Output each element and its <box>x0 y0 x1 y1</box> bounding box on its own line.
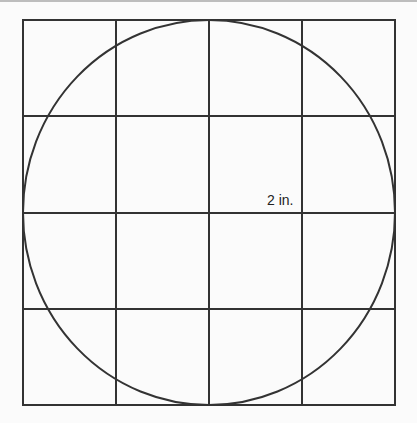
grid-circle-diagram <box>0 0 417 423</box>
radius-label: 2 in. <box>267 192 293 208</box>
